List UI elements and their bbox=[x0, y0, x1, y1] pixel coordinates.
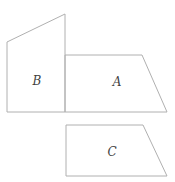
quadrilateral-b bbox=[7, 14, 65, 112]
shapes-canvas: BAC bbox=[0, 0, 175, 182]
geometry-diagram: BAC bbox=[0, 0, 175, 182]
shape-label-a: A bbox=[112, 75, 122, 89]
shape-label-b: B bbox=[32, 74, 42, 88]
shape-label-c: C bbox=[107, 145, 116, 159]
